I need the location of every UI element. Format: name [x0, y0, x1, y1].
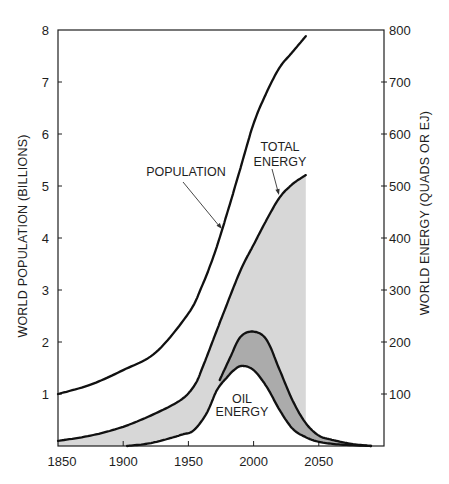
arrowhead-icon: [275, 189, 279, 195]
left-y-tick-label: 6: [42, 127, 49, 142]
x-tick-label: 1950: [174, 454, 203, 469]
left-y-tick-label: 1: [42, 387, 49, 402]
population-arrow: [183, 182, 220, 227]
oil-energy-label-line1: OIL: [232, 392, 252, 406]
population-annotation: POPULATION: [146, 165, 226, 229]
right-y-tick-label: 400: [389, 231, 411, 246]
right-y-tick-label: 300: [389, 283, 411, 298]
oil-energy-label-line2: ENERGY: [216, 405, 269, 419]
left-y-tick-label: 3: [42, 283, 49, 298]
x-tick-label: 1850: [48, 454, 77, 469]
left-y-tick-label: 8: [42, 23, 49, 38]
shaded-areas: [58, 175, 371, 446]
total-energy-label-line2: ENERGY: [254, 155, 307, 169]
right-y-tick-label: 600: [389, 127, 411, 142]
left-axis-title: WORLD POPULATION (BILLIONS): [16, 134, 30, 337]
total-energy-label-line1: TOTAL: [260, 140, 299, 154]
left-y-tick-label: 7: [42, 75, 49, 90]
right-axis-title: WORLD ENERGY (QUADS OR EJ): [418, 111, 432, 315]
right-y-tick-label: 500: [389, 179, 411, 194]
x-tick-label: 1900: [109, 454, 138, 469]
left-y-tick-label: 5: [42, 179, 49, 194]
left-y-tick-label: 2: [42, 335, 49, 350]
population-energy-chart: 1850190019502000205012345678100200300400…: [0, 0, 449, 484]
right-y-tick-label: 800: [389, 23, 411, 38]
right-y-tick-label: 200: [389, 335, 411, 350]
right-y-tick-label: 700: [389, 75, 411, 90]
x-tick-label: 2000: [239, 454, 268, 469]
x-tick-label: 2050: [304, 454, 333, 469]
left-y-tick-label: 4: [42, 231, 49, 246]
population-label: POPULATION: [146, 165, 226, 179]
right-y-tick-label: 100: [389, 387, 411, 402]
